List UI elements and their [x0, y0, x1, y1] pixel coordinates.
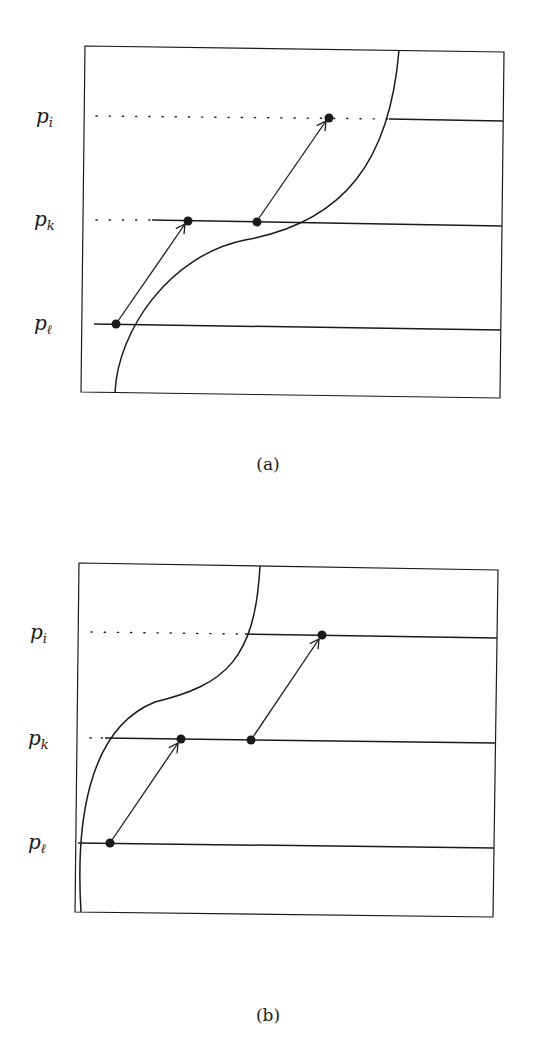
figure-canvas: pi pk pℓ (a) pi pk	[0, 0, 538, 1037]
point-pi	[325, 114, 334, 123]
arrow-pk-to-pi	[259, 121, 326, 218]
pi-dotted-guide	[91, 632, 240, 634]
panel-b: pi pk pℓ (b)	[28, 563, 498, 1025]
arrow-pk-to-pi	[253, 639, 319, 737]
caption-b: (b)	[256, 1005, 280, 1025]
pi-dotted-guide	[96, 116, 390, 119]
level-label-pl: pℓ	[34, 311, 53, 337]
level-label-pi: pi	[36, 104, 53, 130]
point-pi	[318, 631, 327, 640]
level-label-pl: pℓ	[28, 830, 47, 856]
point-pl	[106, 839, 115, 848]
point-pk-target	[177, 735, 186, 744]
pl-level-line	[78, 843, 494, 848]
arrow-pl-to-pk	[112, 743, 178, 840]
pk-level-line	[105, 738, 495, 743]
pk-level-line	[152, 220, 502, 226]
arrow-pl-to-pk	[118, 224, 185, 321]
point-pk-source	[253, 218, 262, 227]
level-label-pi: pi	[30, 620, 47, 646]
level-label-pk: pk	[28, 726, 49, 752]
pi-level-line	[389, 119, 503, 121]
point-pk-target	[184, 217, 193, 226]
level-label-pk: pk	[34, 207, 55, 233]
panel-a: pi pk pℓ (a)	[34, 46, 504, 474]
caption-a: (a)	[256, 454, 279, 474]
point-pl	[112, 320, 121, 329]
pi-level-line	[245, 634, 497, 638]
point-pk-source	[247, 736, 256, 745]
pl-level-line	[94, 324, 501, 330]
